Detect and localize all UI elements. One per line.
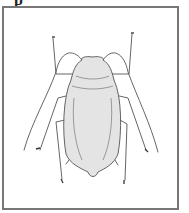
illustration-frame <box>2 6 179 210</box>
aphid-illustration <box>2 2 189 213</box>
